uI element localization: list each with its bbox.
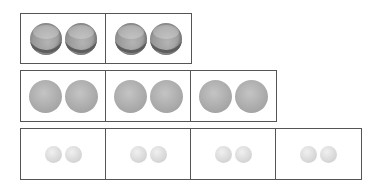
row-small-balls (20, 128, 362, 180)
gray-ball-icon (235, 80, 268, 113)
small-ball-icon (300, 146, 317, 163)
small-ball-icon (45, 146, 62, 163)
small-ball-icon (235, 146, 252, 163)
gray-ball-icon (65, 80, 98, 113)
tennis-ball-icon (115, 23, 147, 55)
box (21, 129, 106, 179)
tennis-ball-icon (30, 23, 62, 55)
box (191, 129, 276, 179)
small-ball-icon (130, 146, 147, 163)
small-ball-icon (215, 146, 232, 163)
box (21, 71, 106, 121)
box (106, 129, 191, 179)
gray-ball-icon (29, 80, 62, 113)
gray-ball-icon (199, 80, 232, 113)
small-ball-icon (65, 146, 82, 163)
tennis-ball-icon (65, 23, 97, 55)
box (276, 129, 361, 179)
row-medium-balls (20, 70, 277, 122)
small-ball-icon (320, 146, 337, 163)
box (21, 14, 106, 63)
box (191, 71, 276, 121)
small-ball-icon (150, 146, 167, 163)
box (106, 14, 191, 63)
box (106, 71, 191, 121)
gray-ball-icon (114, 80, 147, 113)
row-tennis-balls (20, 13, 192, 64)
tennis-ball-icon (150, 23, 182, 55)
gray-ball-icon (150, 80, 183, 113)
